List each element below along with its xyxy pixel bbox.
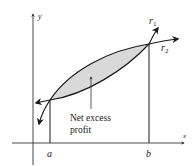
net-excess-profit-region bbox=[50, 44, 149, 100]
point-a-label: a bbox=[47, 148, 52, 159]
curve-r2-label: r2 bbox=[161, 42, 169, 55]
net-excess-profit-diagram: y x a b r1 r2 Net excess profit bbox=[0, 0, 195, 166]
region-label-line2: profit bbox=[70, 125, 91, 135]
curve-r1-label: r1 bbox=[149, 15, 157, 28]
y-axis-label: y bbox=[37, 12, 42, 21]
region-label-line1: Net excess bbox=[70, 113, 111, 123]
x-axis-label: x bbox=[182, 132, 187, 140]
point-b-label: b bbox=[146, 148, 151, 159]
